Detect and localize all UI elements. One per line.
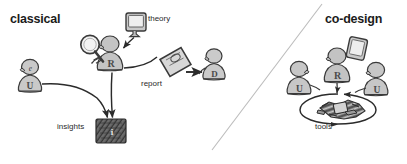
- user-figure-right: U: [355, 62, 388, 95]
- svg-text:R: R: [334, 70, 342, 81]
- arrow-user-to-insights: [42, 84, 108, 118]
- label-insights: insights: [57, 122, 84, 131]
- user-figure: e U: [18, 59, 41, 92]
- label-tools: tools: [315, 122, 332, 131]
- svg-text:D: D: [211, 69, 218, 79]
- label-report: report: [141, 79, 162, 88]
- tools-pile: [317, 100, 365, 119]
- panel-title-classical: classical: [10, 12, 60, 26]
- svg-text:U: U: [27, 81, 34, 91]
- designer-figure: D: [199, 49, 225, 80]
- arrow-theory-to-researcher: [124, 38, 135, 49]
- arrow-researcher-to-report: [124, 57, 157, 68]
- svg-text:U: U: [296, 84, 303, 94]
- svg-text:R: R: [107, 58, 115, 69]
- panel-divider: [212, 4, 322, 150]
- magnifying-glass-icon: [81, 35, 103, 63]
- svg-text:U: U: [374, 85, 381, 95]
- insights-block: i: [96, 119, 126, 143]
- tablet-icon: [346, 36, 368, 60]
- arrow-researcher-to-insights: [111, 73, 112, 118]
- diagram-canvas: e U R: [0, 0, 407, 164]
- label-theory: theory: [148, 14, 170, 23]
- user-figure-left: U: [287, 61, 320, 94]
- theory-monitor-icon: [126, 13, 146, 37]
- panel-title-codesign: co-design: [325, 12, 382, 26]
